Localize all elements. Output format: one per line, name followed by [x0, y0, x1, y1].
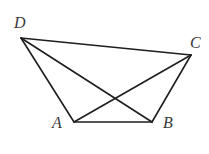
segment-dc [21, 38, 191, 55]
segment-da [21, 38, 74, 122]
vertex-label-b: B [163, 114, 173, 131]
quadrilateral-diagram: D C A B [0, 0, 209, 154]
segment-db [21, 38, 152, 122]
labels-group: D C A B [13, 14, 201, 131]
vertex-label-a: A [51, 114, 62, 131]
segment-ac [74, 55, 191, 122]
vertex-label-c: C [190, 34, 201, 51]
segment-bc [152, 55, 191, 122]
vertex-label-d: D [13, 14, 26, 31]
segments-group [21, 38, 191, 122]
